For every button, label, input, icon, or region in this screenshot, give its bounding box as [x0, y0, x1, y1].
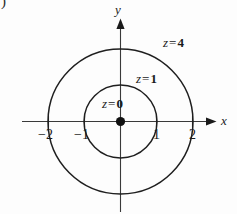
level-curves-figure: ) y x −2 −1 1 2 z=4 z=1 z=0 — [0, 0, 237, 214]
contour-label-z4-equals: = — [168, 35, 177, 50]
contour-label-z1-value: 1 — [150, 71, 157, 86]
x-axis-arrowhead — [206, 117, 217, 125]
y-axis-arrowhead — [116, 19, 124, 30]
contour-label-z0: z=0 — [102, 97, 123, 110]
x-tick-label-pos2: 2 — [189, 128, 196, 142]
contour-label-z4: z=4 — [163, 36, 184, 49]
y-axis-label: y — [115, 3, 121, 16]
x-tick-label-pos1: 1 — [153, 128, 160, 142]
contour-point-z0-origin-dot — [116, 117, 125, 126]
x-tick-label-neg2: −2 — [38, 128, 53, 142]
contour-label-z0-value: 0 — [116, 96, 123, 111]
contour-label-z0-equals: = — [107, 96, 116, 111]
contour-label-z4-value: 4 — [177, 35, 184, 50]
contour-label-z1: z=1 — [136, 72, 157, 85]
contour-label-z1-equals: = — [141, 71, 150, 86]
x-axis-label: x — [221, 114, 227, 127]
x-tick-label-neg1: −1 — [74, 128, 89, 142]
